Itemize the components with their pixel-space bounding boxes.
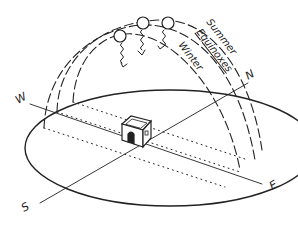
compass-south-label: S bbox=[19, 200, 32, 215]
house-icon bbox=[122, 116, 151, 147]
equinox-sun-ray-icon bbox=[138, 30, 145, 55]
winter-sun-icon bbox=[114, 30, 126, 42]
summer-ground-projection bbox=[73, 102, 248, 160]
equinox-sun-icon bbox=[137, 17, 149, 29]
summer-sun-ray-icon bbox=[158, 30, 166, 49]
compass-north-label: N bbox=[243, 67, 257, 82]
winter-sun-ray-icon bbox=[121, 43, 128, 67]
sun-path-diagram: Summer Equinoxes Winter N S E W bbox=[0, 0, 298, 225]
compass-west-label: W bbox=[13, 89, 30, 106]
ground-horizon-ellipse bbox=[25, 90, 298, 206]
summer-sun-icon bbox=[162, 17, 174, 29]
